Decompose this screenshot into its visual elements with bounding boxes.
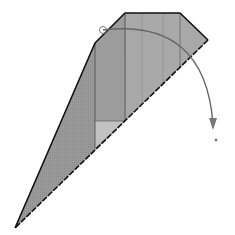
arrowhead-icon: [209, 118, 217, 130]
diagram-canvas: [0, 0, 235, 235]
origami-diagram: [0, 0, 235, 235]
end-dot: [215, 139, 218, 142]
